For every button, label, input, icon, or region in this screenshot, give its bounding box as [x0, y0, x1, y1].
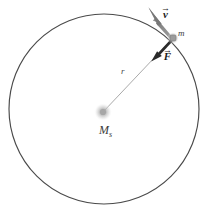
central-mass-subscript: s	[109, 130, 112, 139]
radius-label: r	[121, 67, 125, 76]
force-vector-symbol: F	[163, 51, 172, 62]
central-mass-label: Ms	[99, 124, 112, 136]
velocity-vector-head-shade	[148, 7, 161, 25]
central-body-core	[100, 109, 106, 115]
orbit-diagram: r m Ms →v →F	[0, 0, 211, 221]
velocity-vector-label: →v	[161, 6, 170, 20]
force-vector-label: →F	[163, 48, 172, 62]
orbiting-mass-label: m	[178, 29, 185, 38]
central-mass-symbol: M	[99, 123, 109, 137]
particle-mass-marker	[170, 35, 176, 41]
